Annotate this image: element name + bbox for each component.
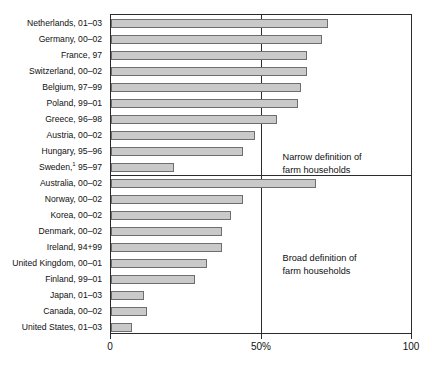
x-axis-tick	[261, 334, 262, 339]
bar	[111, 227, 222, 236]
bar	[111, 115, 277, 124]
annotation-broad: Broad definition of farm households	[283, 252, 357, 278]
bar	[111, 195, 243, 204]
bar	[111, 83, 301, 92]
category-label: Norway, 00–02	[45, 191, 102, 207]
bar-chart: Netherlands, 01–03Germany, 00–02France, …	[0, 0, 432, 376]
annotation-narrow: Narrow definition of farm households	[283, 151, 362, 177]
footnote-marker: 1	[72, 161, 75, 167]
category-label: Switzerland, 00–02	[29, 63, 102, 79]
bar	[111, 179, 316, 188]
plot-area: Narrow definition of farm householdsBroa…	[110, 14, 412, 334]
bar	[111, 211, 231, 220]
category-label: Germany, 00–02	[39, 31, 102, 47]
bar	[111, 131, 255, 140]
bar	[111, 243, 222, 252]
bar	[111, 307, 147, 316]
category-axis-labels: Netherlands, 01–03Germany, 00–02France, …	[0, 14, 106, 334]
category-label: France, 97	[61, 47, 102, 63]
bar	[111, 147, 243, 156]
category-label: Denmark, 00–02	[38, 223, 102, 239]
category-label: Canada, 00–02	[43, 303, 102, 319]
x-axis-tick-label: 50%	[251, 341, 271, 352]
x-axis-tick-label: 100	[403, 341, 420, 352]
category-label: Hungary, 95–96	[41, 143, 102, 159]
bar	[111, 51, 307, 60]
section-divider	[110, 175, 412, 176]
category-label: Ireland, 94+99	[47, 239, 102, 255]
x-axis-tick-label: 0	[107, 341, 113, 352]
bar	[111, 99, 298, 108]
bar	[111, 275, 195, 284]
category-label: United Kingdom, 00–01	[12, 255, 102, 271]
x-axis-tick	[411, 334, 412, 339]
x-axis-tick	[110, 334, 111, 339]
category-label: Netherlands, 01–03	[27, 15, 102, 31]
bar	[111, 259, 207, 268]
category-label: Finland, 99–01	[45, 271, 102, 287]
category-label: Greece, 96–98	[45, 111, 102, 127]
category-label: Japan, 01–03	[50, 287, 102, 303]
bar	[111, 163, 174, 172]
category-label: Sweden,1 95–97	[39, 159, 102, 175]
category-label: Korea, 00–02	[50, 207, 102, 223]
bar	[111, 67, 307, 76]
category-label: Australia, 00–02	[40, 175, 102, 191]
category-label: United States, 01–03	[22, 319, 102, 335]
category-label: Belgium, 97–99	[42, 79, 102, 95]
bar	[111, 19, 328, 28]
bar	[111, 323, 132, 332]
bar	[111, 291, 144, 300]
bar	[111, 35, 322, 44]
category-label: Poland, 99–01	[47, 95, 102, 111]
category-label: Austria, 00–02	[47, 127, 102, 143]
